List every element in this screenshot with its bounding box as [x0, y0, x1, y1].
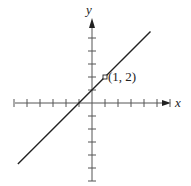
coordinate-plane: x y (1, 2)	[0, 0, 191, 186]
point-label: (1, 2)	[108, 69, 136, 84]
y-axis	[88, 18, 96, 181]
y-axis-label: y	[84, 2, 92, 17]
point-marker	[103, 75, 107, 79]
open-square-marker-icon	[103, 75, 107, 79]
line-series	[18, 32, 151, 165]
data-line	[18, 32, 151, 165]
y-arrow-icon	[89, 18, 95, 28]
x-axis-label: x	[174, 95, 181, 110]
